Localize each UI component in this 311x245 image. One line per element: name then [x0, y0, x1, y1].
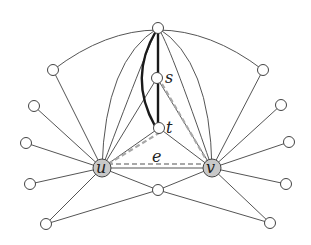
label-v: v: [206, 158, 215, 177]
node-bottom: [153, 185, 164, 196]
node-l4: [25, 179, 36, 190]
edge-v-r4: [212, 168, 286, 184]
node-s: [152, 73, 163, 84]
edge-u-l1: [53, 70, 102, 168]
label-s: s: [165, 68, 173, 87]
node-r3: [284, 137, 295, 148]
label-u: u: [96, 158, 106, 177]
edge-top-u-outer: [102, 28, 158, 168]
node-r2: [276, 100, 287, 111]
node-r4: [281, 179, 292, 190]
node-l3: [21, 138, 32, 149]
graph-diagram: u v s t e: [0, 0, 311, 245]
edge-u-l2: [34, 106, 102, 168]
node-r1: [258, 65, 269, 76]
label-t: t: [166, 118, 173, 137]
edge-u-l4: [30, 168, 102, 184]
node-r5: [265, 218, 276, 229]
edge-u-l3: [26, 143, 102, 168]
node-l2: [29, 101, 40, 112]
node-t: [154, 123, 165, 134]
node-l5: [41, 219, 52, 230]
node-l1: [48, 65, 59, 76]
node-top: [153, 23, 164, 34]
edge-v-r2: [212, 105, 281, 168]
label-e: e: [152, 147, 161, 166]
edge-u-s: [102, 78, 157, 168]
